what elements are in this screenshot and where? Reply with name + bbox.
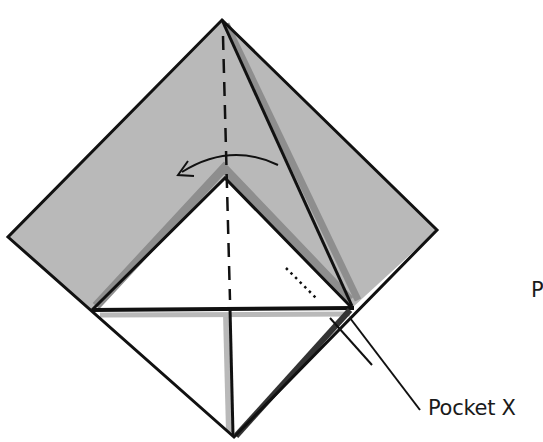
pocket-leader-line: [350, 318, 420, 410]
cut-off-label: P: [531, 278, 543, 302]
pocket-x-label: Pocket X: [428, 396, 516, 420]
inner-diagonal: [330, 318, 372, 365]
base-line: [92, 308, 354, 310]
center-lower-shadow: [226, 313, 229, 432]
white-lower-triangle: [92, 308, 352, 437]
